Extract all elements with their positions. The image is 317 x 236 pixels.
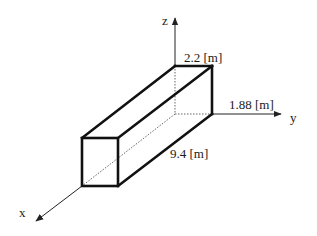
y-axis-label: y — [290, 110, 297, 125]
edge-top-right-long — [118, 66, 212, 138]
z-axis-label: z — [162, 13, 168, 28]
length-dimension-label: 9.4 [m] — [170, 146, 208, 161]
box-diagram: z y x 2.2 [m] 1.88 [m] 9.4 [m] — [0, 0, 317, 236]
height-dimension-label: 2.2 [m] — [184, 50, 222, 65]
x-axis — [36, 186, 82, 221]
hidden-edges — [82, 66, 212, 186]
axes — [36, 18, 281, 221]
width-dimension-label: 1.88 [m] — [229, 97, 274, 112]
hidden-edge-length — [82, 114, 175, 186]
x-axis-label: x — [19, 205, 26, 220]
diagram-canvas: z y x 2.2 [m] 1.88 [m] 9.4 [m] — [0, 0, 317, 236]
box-edges — [82, 66, 212, 186]
edge-top-left-long — [82, 66, 175, 138]
